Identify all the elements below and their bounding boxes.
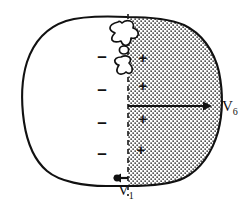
minus-sign-1: – — [94, 48, 110, 65]
plus-sign-2: + — [135, 78, 151, 93]
v6-label: V6 — [222, 98, 238, 114]
plus-sign-3: + — [135, 111, 151, 126]
figure-container: – – – – + + + + V6 V1 — [0, 0, 252, 215]
v1-label: V1 — [118, 182, 134, 198]
plus-sign-4: + — [133, 142, 149, 157]
heart-blob-lower-lobe — [115, 56, 132, 74]
minus-sign-4: – — [94, 145, 110, 162]
minus-sign-3: – — [94, 114, 110, 131]
plus-sign-1: + — [135, 50, 151, 65]
v6-label-subscript: 6 — [233, 106, 238, 117]
minus-sign-2: – — [94, 81, 110, 98]
heart-blob-inner-circle — [119, 46, 128, 54]
v1-label-text: V — [118, 182, 129, 198]
v6-label-text: V — [222, 98, 233, 114]
v1-label-subscript: 1 — [129, 190, 134, 201]
v1-terminal-dot-icon — [114, 175, 121, 182]
